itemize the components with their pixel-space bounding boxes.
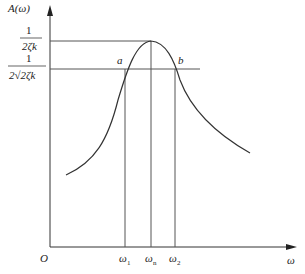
omegan-label: ω <box>145 252 153 264</box>
omega2-subscript: 2 <box>177 259 181 267</box>
point-b-label: b <box>178 54 184 66</box>
omega1-label: ω <box>119 252 127 264</box>
peak-label-numerator: 1 <box>26 24 32 36</box>
y-axis-arrow-icon <box>47 5 53 16</box>
half-power-label-denominator: 2√2ζk <box>9 69 36 82</box>
omega2-label: ω <box>169 252 177 264</box>
omega1-subscript: 1 <box>127 259 131 267</box>
omegan-subscript: n <box>153 259 157 267</box>
resonance-curve <box>66 41 250 175</box>
point-a-label: a <box>117 54 123 66</box>
x-axis-label: ω <box>287 254 295 266</box>
x-axis-arrow-icon <box>286 244 297 250</box>
y-axis-label: A(ω) <box>7 2 30 15</box>
origin-label: O <box>40 252 48 264</box>
half-power-label-numerator: 1 <box>26 52 32 64</box>
amplitude-frequency-diagram: A(ω) 1 2ζk 1 2√2ζk a b O ω 1 ω n ω 2 ω <box>0 0 305 274</box>
